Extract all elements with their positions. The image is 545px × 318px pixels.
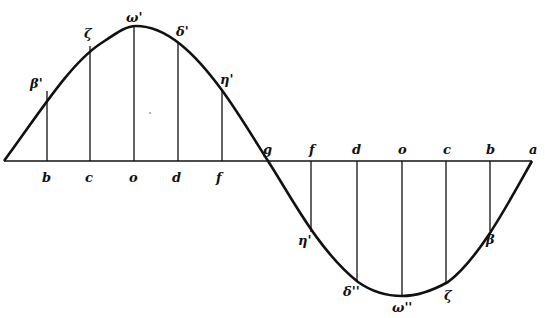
label-zeta-upper: ζ bbox=[84, 26, 93, 41]
label-eta-lower: η' bbox=[298, 233, 311, 248]
label-omega-prime: ω' bbox=[126, 10, 142, 25]
sine-wave-diagram: b c o d f β' ζ ω' δ' η' g a f d o c b η'… bbox=[0, 0, 545, 318]
label-o-lower: o bbox=[398, 142, 407, 157]
label-eta-prime: η' bbox=[220, 72, 233, 87]
label-zeta-lower: ζ bbox=[444, 288, 453, 303]
label-c-upper: c bbox=[85, 170, 93, 185]
lower-ordinates bbox=[311, 161, 490, 296]
upper-ordinates bbox=[47, 27, 222, 161]
stray-dot bbox=[149, 112, 151, 114]
label-c-lower: c bbox=[443, 142, 451, 157]
label-o-upper: o bbox=[129, 170, 138, 185]
label-beta-prime: β' bbox=[29, 76, 43, 91]
label-b-upper: b bbox=[42, 170, 51, 185]
label-delta-double-prime: δ'' bbox=[342, 284, 360, 299]
label-a: a bbox=[529, 142, 537, 157]
label-delta-prime: δ' bbox=[175, 24, 189, 39]
label-beta-lower: β bbox=[485, 232, 495, 247]
label-g: g bbox=[263, 142, 272, 157]
label-d-upper: d bbox=[172, 170, 181, 185]
label-d-lower: d bbox=[352, 142, 361, 157]
label-b-lower: b bbox=[486, 142, 495, 157]
label-f-upper: f bbox=[215, 170, 224, 185]
label-omega-double-prime: ω'' bbox=[392, 300, 412, 315]
label-f-lower: f bbox=[308, 142, 317, 157]
